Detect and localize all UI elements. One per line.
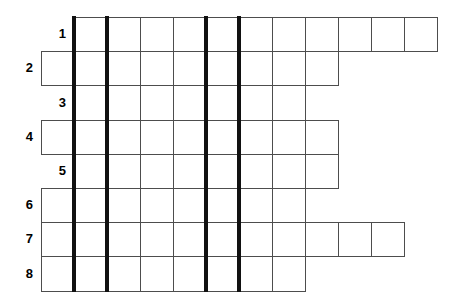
crossword-cell[interactable] (173, 222, 207, 257)
crossword-cell[interactable] (206, 154, 240, 189)
crossword-cell[interactable] (107, 154, 141, 189)
crossword-cell[interactable] (140, 222, 174, 257)
crossword-cell[interactable] (107, 222, 141, 257)
crossword-cell[interactable] (239, 51, 273, 86)
crossword-cell[interactable] (140, 120, 174, 155)
row-number-label: 5 (50, 164, 66, 177)
crossword-cell[interactable] (239, 222, 273, 257)
crossword-cell[interactable] (41, 120, 75, 155)
crossword-cell[interactable] (107, 51, 141, 86)
crossword-cell[interactable] (206, 222, 240, 257)
crossword-cell[interactable] (206, 85, 240, 120)
crossword-cell[interactable] (173, 154, 207, 189)
row-number-label: 4 (17, 130, 33, 143)
crossword-grid: 12345678 (0, 0, 463, 308)
crossword-cell[interactable] (173, 120, 207, 155)
crossword-cell[interactable] (74, 222, 108, 257)
crossword-cell[interactable] (404, 17, 438, 52)
row-number-label: 7 (17, 232, 33, 245)
crossword-cell[interactable] (74, 256, 108, 291)
crossword-cell[interactable] (272, 154, 306, 189)
crossword-puzzle: 12345678 (0, 0, 463, 308)
crossword-cell[interactable] (173, 256, 207, 291)
crossword-cell[interactable] (239, 256, 273, 291)
crossword-cell[interactable] (206, 188, 240, 223)
crossword-cell[interactable] (107, 85, 141, 120)
crossword-cell[interactable] (239, 85, 273, 120)
crossword-cell[interactable] (107, 256, 141, 291)
crossword-cell[interactable] (74, 188, 108, 223)
row-number-label: 8 (17, 267, 33, 280)
crossword-cell[interactable] (272, 120, 306, 155)
crossword-cell[interactable] (41, 256, 75, 291)
crossword-cell[interactable] (107, 17, 141, 52)
crossword-cell[interactable] (173, 188, 207, 223)
crossword-cell[interactable] (74, 154, 108, 189)
crossword-cell[interactable] (140, 256, 174, 291)
heavy-column-rule (72, 16, 76, 292)
heavy-column-rule (204, 16, 208, 292)
crossword-cell[interactable] (173, 17, 207, 52)
row-number-label: 3 (50, 96, 66, 109)
crossword-cell[interactable] (272, 17, 306, 52)
crossword-cell[interactable] (272, 85, 306, 120)
crossword-cell[interactable] (107, 188, 141, 223)
crossword-cell[interactable] (305, 222, 339, 257)
crossword-cell[interactable] (74, 85, 108, 120)
row-number-label: 2 (17, 61, 33, 74)
crossword-cell[interactable] (239, 188, 273, 223)
crossword-cell[interactable] (140, 188, 174, 223)
crossword-cell[interactable] (239, 120, 273, 155)
crossword-cell[interactable] (371, 222, 405, 257)
row-number-label: 6 (17, 198, 33, 211)
crossword-cell[interactable] (338, 17, 372, 52)
crossword-cell[interactable] (206, 120, 240, 155)
crossword-cell[interactable] (272, 51, 306, 86)
crossword-cell[interactable] (338, 222, 372, 257)
crossword-cell[interactable] (140, 17, 174, 52)
crossword-cell[interactable] (305, 154, 339, 189)
crossword-cell[interactable] (272, 256, 306, 291)
crossword-cell[interactable] (206, 17, 240, 52)
crossword-cell[interactable] (140, 154, 174, 189)
crossword-cell[interactable] (305, 51, 339, 86)
crossword-cell[interactable] (305, 120, 339, 155)
crossword-cell[interactable] (272, 188, 306, 223)
heavy-column-rule (237, 16, 241, 292)
crossword-cell[interactable] (206, 256, 240, 291)
crossword-cell[interactable] (371, 17, 405, 52)
heavy-column-rule (105, 16, 109, 292)
crossword-cell[interactable] (239, 154, 273, 189)
crossword-cell[interactable] (74, 51, 108, 86)
crossword-cell[interactable] (305, 17, 339, 52)
crossword-cell[interactable] (41, 188, 75, 223)
crossword-cell[interactable] (173, 51, 207, 86)
crossword-cell[interactable] (41, 222, 75, 257)
crossword-cell[interactable] (173, 85, 207, 120)
crossword-cell[interactable] (107, 120, 141, 155)
crossword-cell[interactable] (41, 51, 75, 86)
crossword-cell[interactable] (74, 17, 108, 52)
crossword-cell[interactable] (140, 51, 174, 86)
crossword-cell[interactable] (206, 51, 240, 86)
crossword-cell[interactable] (74, 120, 108, 155)
row-number-label: 1 (50, 27, 66, 40)
crossword-cell[interactable] (272, 222, 306, 257)
crossword-cell[interactable] (140, 85, 174, 120)
crossword-cell[interactable] (239, 17, 273, 52)
